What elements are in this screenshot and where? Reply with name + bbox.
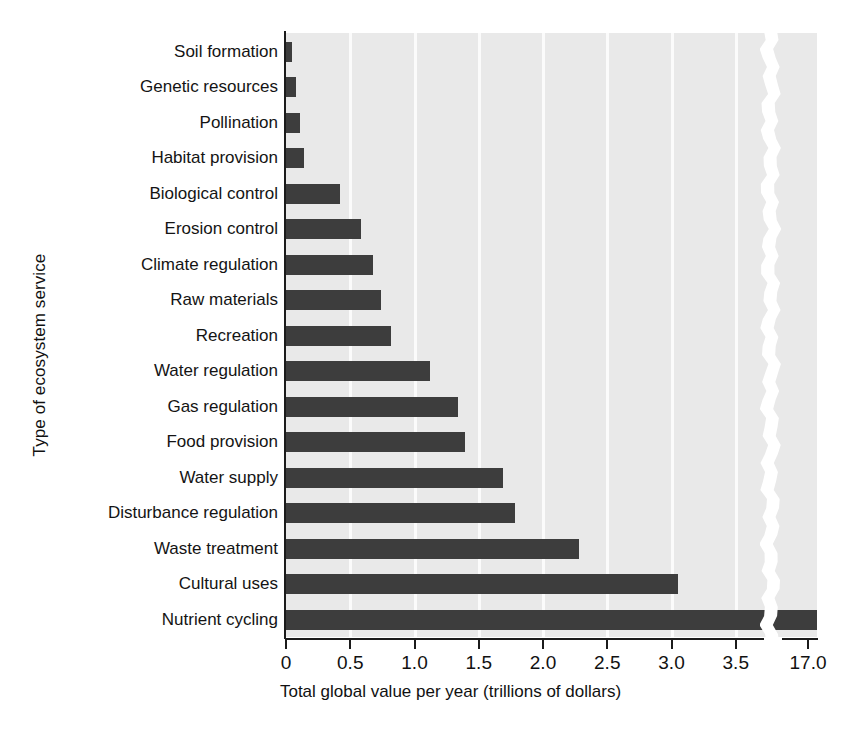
category-label: Cultural uses xyxy=(40,575,278,592)
category-label: Water supply xyxy=(40,469,278,486)
x-tick-label: 3.5 xyxy=(706,652,766,674)
bar xyxy=(286,255,373,275)
x-tick-label: 17.0 xyxy=(778,652,838,674)
category-label: Disturbance regulation xyxy=(40,504,278,521)
bar xyxy=(286,361,430,381)
bar xyxy=(286,77,296,97)
x-axis-line-left xyxy=(285,638,764,640)
category-label: Habitat provision xyxy=(40,149,278,166)
ecosystem-service-value-bar-chart: Type of ecosystem service Soil formation… xyxy=(0,0,859,737)
x-tick xyxy=(349,640,351,649)
gridline xyxy=(606,33,609,637)
category-label: Genetic resources xyxy=(40,78,278,95)
x-tick xyxy=(414,640,416,649)
category-label: Recreation xyxy=(40,327,278,344)
x-tick-label: 1.5 xyxy=(449,652,509,674)
category-label: Nutrient cycling xyxy=(40,611,278,628)
x-tick xyxy=(285,640,287,649)
y-axis-line xyxy=(284,31,286,639)
bar xyxy=(286,397,458,417)
category-label: Pollination xyxy=(40,114,278,131)
category-label: Biological control xyxy=(40,185,278,202)
plot-area xyxy=(286,33,817,637)
category-label: Water regulation xyxy=(40,362,278,379)
category-label: Climate regulation xyxy=(40,256,278,273)
x-tick-label: 2.0 xyxy=(513,652,573,674)
gridline xyxy=(735,33,738,637)
x-tick-label: 3.0 xyxy=(642,652,702,674)
x-tick xyxy=(478,640,480,649)
bar xyxy=(286,42,292,62)
category-label: Waste treatment xyxy=(40,540,278,557)
x-tick xyxy=(735,640,737,649)
bar xyxy=(286,503,515,523)
x-tick-label: 0.5 xyxy=(320,652,380,674)
bar xyxy=(286,539,579,559)
x-tick xyxy=(542,640,544,649)
page-margin xyxy=(0,719,859,737)
gridline xyxy=(671,33,674,637)
bar xyxy=(286,290,381,310)
bar xyxy=(286,326,391,346)
bar xyxy=(286,468,503,488)
x-tick xyxy=(671,640,673,649)
bar xyxy=(286,574,678,594)
bar xyxy=(286,219,361,239)
bar xyxy=(286,184,340,204)
bar xyxy=(286,148,304,168)
category-label: Food provision xyxy=(40,433,278,450)
axis-break-marker xyxy=(760,33,782,637)
category-label: Gas regulation xyxy=(40,398,278,415)
x-axis-title: Total global value per year (trillions o… xyxy=(0,682,859,702)
x-tick-label: 0 xyxy=(256,652,316,674)
x-axis-title-text: Total global value per year (trillions o… xyxy=(238,682,621,702)
category-label: Soil formation xyxy=(40,43,278,60)
category-label: Erosion control xyxy=(40,220,278,237)
bar xyxy=(286,610,817,630)
y-axis-category-labels: Soil formationGenetic resourcesPollinati… xyxy=(40,33,278,637)
x-tick-label: 1.0 xyxy=(385,652,445,674)
x-tick xyxy=(606,640,608,649)
x-axis-line-right xyxy=(782,638,818,640)
x-tick xyxy=(807,640,809,649)
category-label: Raw materials xyxy=(40,291,278,308)
x-tick-label: 2.5 xyxy=(577,652,637,674)
bar xyxy=(286,432,465,452)
bar xyxy=(286,113,300,133)
